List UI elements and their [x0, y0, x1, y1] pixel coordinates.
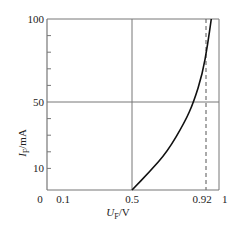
x-tick-label-0.1: 0.1: [56, 193, 70, 205]
y-axis-title: IF/mA: [16, 129, 31, 158]
axes: [47, 19, 219, 190]
y-tick-label-50: 50: [33, 96, 45, 108]
x-tick-label-0.5: 0.5: [125, 193, 139, 205]
chart: 105010000.10.50.921 UF/V IF/mA: [0, 0, 236, 230]
x-tick-label-0.92: 0.92: [192, 193, 211, 205]
x-tick-label-1: 1: [222, 193, 228, 205]
y-tick-label-100: 100: [28, 13, 45, 25]
x-axis-title: UF/V: [106, 206, 129, 221]
x-tick-label-0: 0: [37, 193, 43, 205]
series-line: [132, 19, 211, 190]
x-axis-unit: /V: [119, 206, 130, 218]
series-curve: [132, 19, 211, 190]
y-axis-unit: /mA: [16, 129, 28, 149]
y-tick-label-10: 10: [33, 162, 45, 174]
grid-lines: [47, 19, 219, 190]
tick-labels: 105010000.10.50.921: [28, 13, 228, 205]
